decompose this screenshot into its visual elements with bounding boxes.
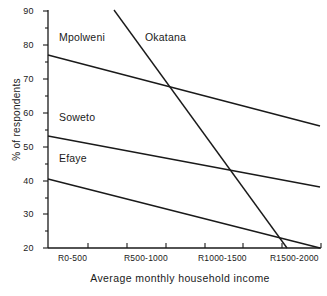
series-line-soweto (48, 136, 320, 187)
series-label-okatana: Okatana (145, 31, 186, 43)
y-tick-label-20: 20 (8, 243, 34, 253)
series-label-efaye: Efaye (59, 152, 87, 164)
y-tick-label-70: 70 (8, 74, 34, 84)
series-line-efaye (48, 179, 320, 248)
y-tick-label-80: 80 (8, 40, 34, 50)
x-tick-label-r1500-2000: R1500-2000 (270, 253, 319, 263)
series-label-mpolweni: Mpolweni (59, 31, 105, 43)
series-label-soweto: Soweto (59, 111, 95, 123)
y-tick-label-60: 60 (8, 108, 34, 118)
x-tick-label-r1000-1500: R1000-1500 (198, 253, 247, 263)
y-tick-label-40: 40 (8, 176, 34, 186)
x-tick-label-r500-1000: R500-1000 (124, 253, 168, 263)
y-tick-label-50: 50 (8, 142, 34, 152)
chart-figure: % of respondents Average monthly househo… (0, 0, 327, 296)
y-tick-label-90: 90 (8, 6, 34, 16)
y-tick-label-30: 30 (8, 209, 34, 219)
series-line-okatana (114, 10, 287, 248)
x-tick-label-r0-500: R0-500 (58, 253, 87, 263)
y-tick-marks (43, 11, 48, 248)
chart-plot-area (0, 0, 327, 296)
x-axis-title: Average monthly household income (40, 272, 320, 284)
